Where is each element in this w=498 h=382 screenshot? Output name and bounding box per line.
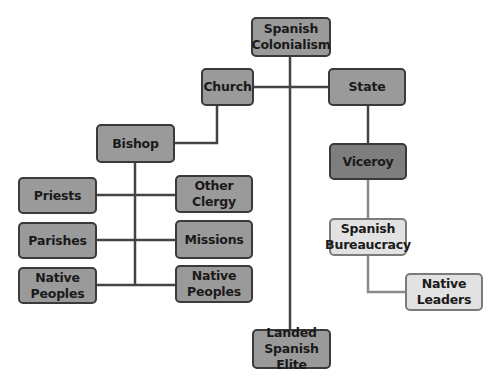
- node-label: Spanish Bureaucracy: [325, 221, 411, 253]
- node-label: Bishop: [112, 136, 159, 152]
- node-viceroy: Viceroy: [329, 143, 407, 180]
- node-other-clergy: Other Clergy: [175, 175, 253, 213]
- node-label: Landed Spanish Elite: [254, 325, 329, 373]
- node-priests: Priests: [18, 177, 97, 214]
- node-label: Missions: [184, 232, 243, 248]
- node-bishop: Bishop: [96, 124, 175, 163]
- node-label: Church: [203, 79, 251, 95]
- node-label: Native Leaders: [417, 276, 472, 308]
- node-label: Viceroy: [342, 154, 393, 170]
- node-spanish-bureaucracy: Spanish Bureaucracy: [329, 218, 407, 256]
- node-native-peoples-right: Native Peoples: [175, 265, 253, 303]
- node-label: Spanish Colonialism: [251, 21, 330, 53]
- node-native-leaders: Native Leaders: [405, 273, 483, 311]
- node-native-peoples-left: Native Peoples: [18, 267, 97, 304]
- node-church: Church: [201, 68, 254, 106]
- org-chart-diagram: Spanish Colonialism Church State Bishop …: [0, 0, 498, 382]
- node-label: Native Peoples: [187, 268, 241, 300]
- node-landed-spanish-elite: Landed Spanish Elite: [252, 329, 331, 369]
- bureaucracy-leaders-line: [368, 255, 405, 292]
- node-label: State: [349, 79, 386, 95]
- church-bishop-line: [174, 105, 217, 143]
- node-parishes: Parishes: [18, 222, 97, 259]
- node-label: Priests: [34, 188, 82, 204]
- node-state: State: [328, 68, 406, 106]
- node-label: Parishes: [28, 233, 86, 249]
- node-label: Native Peoples: [31, 270, 85, 302]
- node-label: Other Clergy: [177, 178, 251, 210]
- node-spanish-colonialism: Spanish Colonialism: [251, 17, 331, 57]
- node-missions: Missions: [175, 220, 253, 259]
